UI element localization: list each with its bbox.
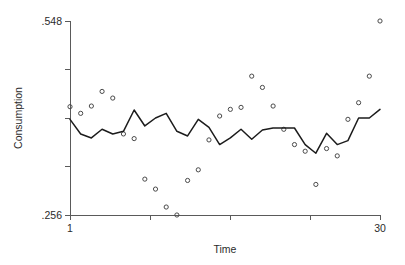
- scatter-point: [335, 154, 339, 158]
- scatter-point: [143, 177, 147, 181]
- scatter-point: [250, 74, 254, 78]
- scatter-point: [367, 74, 371, 78]
- chart-canvas: .256.548 130 Consumption Time: [0, 0, 405, 265]
- scatter-point: [292, 142, 296, 146]
- scatter-point: [324, 146, 328, 150]
- scatter-point: [303, 149, 307, 153]
- x-axis-title: Time: [214, 243, 237, 255]
- scatter-point: [79, 111, 83, 115]
- y-tick-label: .256: [42, 209, 63, 221]
- x-tick-label: 1: [67, 222, 73, 234]
- scatter-point: [228, 107, 232, 111]
- scatter-point: [357, 101, 361, 105]
- axes: [65, 21, 380, 220]
- scatter-point: [164, 205, 168, 209]
- scatter-point: [185, 178, 189, 182]
- consumption-time-chart: .256.548 130 Consumption Time: [0, 0, 405, 265]
- scatter-point: [89, 104, 93, 108]
- x-axis-ticks: [70, 215, 380, 220]
- y-axis-ticks: [65, 21, 70, 215]
- scatter-point: [378, 19, 382, 23]
- scatter-points-layer: [68, 19, 382, 217]
- fitted-line-series: [70, 109, 380, 153]
- scatter-point: [346, 117, 350, 121]
- scatter-point: [196, 168, 200, 172]
- scatter-point: [100, 89, 104, 93]
- scatter-point: [132, 136, 136, 140]
- x-axis-tick-labels: 130: [67, 222, 386, 234]
- scatter-point: [111, 96, 115, 100]
- scatter-point: [239, 105, 243, 109]
- scatter-point: [121, 132, 125, 136]
- x-tick-label: 30: [374, 222, 386, 234]
- scatter-point: [260, 85, 264, 89]
- scatter-point: [153, 187, 157, 191]
- scatter-point: [218, 114, 222, 118]
- y-axis-title: Consumption: [12, 87, 24, 149]
- scatter-point: [271, 104, 275, 108]
- scatter-point: [207, 138, 211, 142]
- y-tick-label: .548: [42, 15, 63, 27]
- y-axis-tick-labels: .256.548: [42, 15, 63, 221]
- scatter-point: [314, 182, 318, 186]
